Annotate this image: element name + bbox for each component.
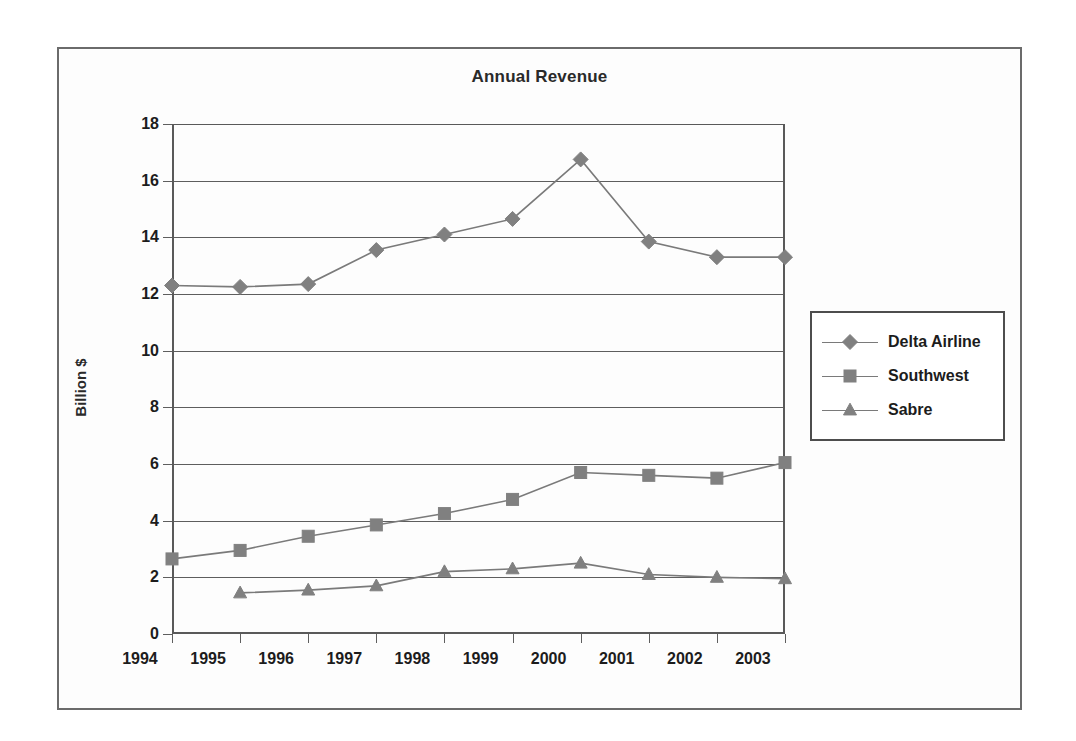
- data-point-square: [438, 508, 450, 520]
- y-axis-title: Billion $: [72, 323, 89, 453]
- y-tick-mark: [163, 351, 172, 352]
- x-tick-mark: [172, 634, 173, 643]
- x-tick-label: 1995: [190, 650, 226, 668]
- x-tick-mark: [513, 634, 514, 643]
- x-tick-label: 2002: [667, 650, 703, 668]
- x-tick-label: 1999: [463, 650, 499, 668]
- y-tick-label: 8: [150, 398, 159, 416]
- x-tick-label: 1997: [326, 650, 362, 668]
- legend-key-diamond-icon: [822, 334, 878, 350]
- data-point-diamond: [233, 279, 248, 294]
- data-point-square: [575, 467, 587, 479]
- data-point-diamond: [778, 250, 793, 265]
- y-tick-mark: [163, 294, 172, 295]
- y-tick-label: 6: [150, 455, 159, 473]
- legend-label: Southwest: [888, 367, 969, 385]
- data-point-diamond: [369, 243, 384, 258]
- data-point-diamond: [709, 250, 724, 265]
- y-tick-mark: [163, 577, 172, 578]
- legend-key-square-icon: [822, 368, 878, 384]
- x-tick-label: 1996: [258, 650, 294, 668]
- x-tick-mark: [785, 634, 786, 643]
- legend-marker-diamond-icon: [840, 332, 860, 352]
- data-point-diamond: [301, 277, 316, 292]
- x-tick-mark: [581, 634, 582, 643]
- x-tick-mark: [717, 634, 718, 643]
- series-sabre: [234, 556, 792, 598]
- x-tick-mark: [308, 634, 309, 643]
- plot-area: 024681012141618 199419951996199719981999…: [172, 124, 785, 634]
- data-point-square: [507, 493, 519, 505]
- y-tick-mark: [163, 124, 172, 125]
- y-tick-mark: [163, 521, 172, 522]
- y-tick-label: 16: [141, 172, 159, 190]
- data-point-square: [234, 544, 246, 556]
- x-tick-label: 2003: [735, 650, 771, 668]
- data-point-square: [302, 530, 314, 542]
- legend-item-southwest[interactable]: Southwest: [812, 359, 1003, 393]
- y-tick-mark: [163, 464, 172, 465]
- y-tick-label: 12: [141, 285, 159, 303]
- data-point-diamond: [843, 335, 858, 350]
- data-point-triangle: [844, 403, 857, 415]
- y-tick-mark: [163, 634, 172, 635]
- y-tick-label: 4: [150, 512, 159, 530]
- data-point-diamond: [437, 227, 452, 242]
- data-point-square: [844, 370, 856, 382]
- x-tick-label: 2001: [599, 650, 635, 668]
- series-southwest: [166, 457, 791, 565]
- data-point-triangle: [574, 556, 587, 568]
- legend-item-sabre[interactable]: Sabre: [812, 393, 1003, 427]
- y-tick-mark: [163, 237, 172, 238]
- legend-marker-triangle-icon: [840, 400, 860, 420]
- data-point-square: [370, 519, 382, 531]
- y-tick-label: 18: [141, 115, 159, 133]
- data-point-square: [643, 469, 655, 481]
- y-tick-mark: [163, 407, 172, 408]
- chart-title: Annual Revenue: [59, 67, 1020, 87]
- data-point-square: [711, 472, 723, 484]
- legend-item-delta-airline[interactable]: Delta Airline: [812, 325, 1003, 359]
- x-tick-mark: [444, 634, 445, 643]
- x-tick-label: 1998: [395, 650, 431, 668]
- legend-label: Delta Airline: [888, 333, 981, 351]
- x-tick-label: 2000: [531, 650, 567, 668]
- series-line: [172, 463, 785, 559]
- data-point-diamond: [165, 278, 180, 293]
- y-tick-label: 14: [141, 228, 159, 246]
- series-delta-airline: [165, 152, 793, 295]
- data-point-triangle: [779, 572, 792, 584]
- x-tick-label: 1994: [122, 650, 158, 668]
- legend-marker-square-icon: [840, 366, 860, 386]
- data-point-square: [779, 457, 791, 469]
- data-point-square: [166, 553, 178, 565]
- y-tick-label: 0: [150, 625, 159, 643]
- y-tick-mark: [163, 181, 172, 182]
- x-tick-mark: [649, 634, 650, 643]
- y-tick-label: 2: [150, 568, 159, 586]
- x-tick-mark: [376, 634, 377, 643]
- y-tick-label: 10: [141, 342, 159, 360]
- chart-legend: Delta AirlineSouthwestSabre: [810, 311, 1005, 441]
- chart-frame: Annual Revenue Billion $ 024681012141618…: [57, 47, 1022, 710]
- chart-page: Annual Revenue Billion $ 024681012141618…: [0, 0, 1076, 741]
- legend-label: Sabre: [888, 401, 932, 419]
- legend-key-triangle-icon: [822, 402, 878, 418]
- series-line: [172, 159, 785, 287]
- x-tick-mark: [240, 634, 241, 643]
- series-plot: [172, 124, 785, 634]
